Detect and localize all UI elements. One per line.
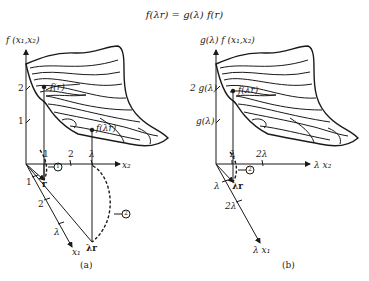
marker-2-a: 2 (124, 210, 128, 216)
x1-tick-lambda-a: λ (54, 228, 60, 237)
x1-tick-1-a: 1 (26, 178, 32, 187)
x1-tick-lambda-b: λ (214, 182, 220, 191)
x2-tick-lambda-b: λ (230, 150, 236, 159)
point-lambda-r-label-a: λr (86, 244, 97, 253)
surface-point-lambda-r-label: f(λr) (96, 124, 116, 133)
x2-tick-2-a: 2 (68, 150, 74, 159)
x1-axis-label-b: λ x₁ (253, 246, 270, 255)
z-axis-label-a: f (x₁,x₂) (6, 36, 39, 45)
x1-tick-2lambda-b: 2λ (225, 202, 236, 211)
x2-tick-lambda-a: λ (89, 150, 95, 159)
marker-2-b: 2 (248, 166, 252, 172)
caption-a: (a) (80, 260, 92, 270)
x1-tick-2-a: 2 (38, 200, 44, 209)
panel-b-graphics (216, 46, 358, 243)
x2-tick-2lambda-b: 2λ (256, 150, 267, 159)
z-axis-label-b: g(λ) f (x₁,x₂) (200, 36, 255, 45)
x1-axis-label-a: x₁ (72, 248, 81, 257)
panel-a-graphics (26, 46, 168, 247)
surface-point-lambda-r-label-b: f(λr) (238, 86, 258, 95)
diagram-canvas (0, 0, 369, 281)
point-lambda-r-label-b: λr (232, 182, 243, 191)
surface-point-r-label: f(r) (50, 83, 65, 92)
z-tick-2-a: 2 (18, 84, 24, 93)
z-tick-2g-b: 2 g(λ) (190, 84, 217, 93)
x2-axis-label-b: λ x₂ (314, 161, 331, 170)
x2-axis-label-a: x₂ (122, 161, 131, 170)
x2-tick-1-a: 1 (43, 150, 49, 159)
z-tick-g-b: g(λ) (196, 117, 215, 126)
z-tick-1-a: 1 (18, 117, 24, 126)
x1-axis-b (216, 164, 260, 243)
caption-b: (b) (282, 260, 295, 270)
marker-1-a: 1 (56, 163, 60, 169)
point-r-label: r (42, 180, 47, 189)
